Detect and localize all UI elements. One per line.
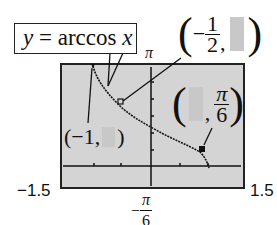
left-point-leader	[88, 68, 92, 123]
hidden-y-value	[230, 17, 244, 51]
x-fraction: 12	[205, 14, 220, 55]
right-point-label: (,π6)	[172, 82, 244, 126]
open-paren: (	[178, 9, 193, 58]
equation-var: x	[122, 25, 132, 50]
equation-lhs: y	[23, 25, 33, 50]
x-den: 2	[205, 35, 220, 55]
close-paren: )	[248, 9, 263, 58]
ymax-label: π	[145, 44, 153, 62]
close-paren: )	[229, 79, 244, 128]
comma: ,	[220, 30, 226, 55]
y-den: 6	[214, 105, 229, 125]
close-paren: )	[117, 124, 124, 149]
xmin-label: −1.5	[17, 181, 51, 201]
mid-point-label: (−12,)	[178, 12, 262, 56]
y-fraction: π6	[214, 84, 229, 125]
ymin-sign: −	[131, 202, 140, 219]
hidden-y-value	[102, 127, 115, 147]
left-point-label: (−1,)	[64, 124, 125, 150]
xmax-label: 1.5	[250, 181, 274, 201]
mid-point-marker	[118, 99, 123, 104]
x-label: (−1,	[64, 124, 100, 149]
hidden-x-value	[189, 87, 203, 121]
equation-rhs: = arccos	[33, 25, 122, 50]
equation-callout: y = arccos x	[14, 23, 137, 54]
ymin-num: π	[140, 190, 152, 211]
ymin-label: −π6	[131, 190, 152, 225]
ymin-den: 6	[140, 211, 152, 225]
x-sign: −	[193, 21, 205, 46]
comma: ,	[205, 100, 211, 125]
right-point-leader	[204, 128, 212, 145]
open-paren: (	[172, 79, 187, 128]
left-endpoint-marker	[91, 64, 95, 68]
right-point-marker	[199, 146, 205, 152]
ymin-fraction: π6	[140, 190, 152, 225]
